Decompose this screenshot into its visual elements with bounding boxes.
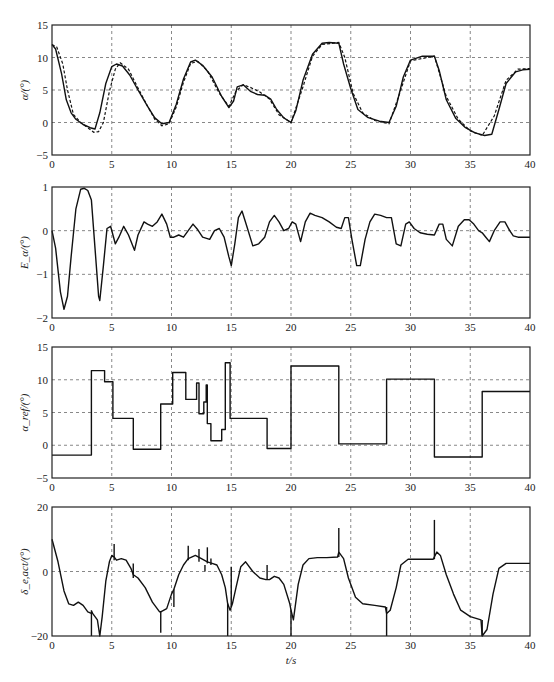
y-tick-label: 15 <box>37 341 49 353</box>
subplot-1: 0510152025303540−5051015α/(°) <box>18 19 536 170</box>
x-tick-label: 35 <box>465 639 477 651</box>
subplot-2: 0510152025303540−2−101E_α/(°) <box>18 181 536 333</box>
y-axis-label: δ_e,act/(°) <box>18 548 31 595</box>
x-tick-label: 15 <box>226 158 238 170</box>
x-tick-label: 0 <box>49 321 55 333</box>
x-tick-label: 30 <box>405 639 417 651</box>
figure-canvas: 0510152025303540−5051015α/(°)05101520253… <box>0 0 554 682</box>
x-tick-label: 40 <box>525 158 537 170</box>
x-tick-label: 5 <box>109 639 115 651</box>
x-tick-label: 0 <box>49 639 55 651</box>
x-tick-label: 35 <box>465 158 477 170</box>
x-tick-label: 35 <box>465 321 477 333</box>
y-tick-label: 10 <box>37 374 49 386</box>
x-tick-label: 35 <box>465 481 477 493</box>
y-tick-label: 0 <box>43 225 49 237</box>
series-solid <box>52 363 530 457</box>
x-tick-label: 0 <box>49 481 55 493</box>
x-tick-label: 5 <box>109 158 115 170</box>
x-tick-label: 5 <box>109 481 115 493</box>
y-tick-label: −5 <box>36 149 48 161</box>
x-tick-label: 20 <box>286 481 298 493</box>
y-axis-label: α_ref/(°) <box>18 393 31 431</box>
x-tick-label: 15 <box>226 481 238 493</box>
x-tick-label: 25 <box>345 158 357 170</box>
y-tick-label: −5 <box>36 472 48 484</box>
x-tick-label: 10 <box>166 158 178 170</box>
y-tick-label: −20 <box>31 630 49 642</box>
x-tick-label: 40 <box>525 321 537 333</box>
x-tick-label: 40 <box>525 639 537 651</box>
x-tick-label: 20 <box>286 158 298 170</box>
x-tick-label: 15 <box>226 639 238 651</box>
x-tick-label: 0 <box>49 158 55 170</box>
subplot-4: 0510152025303540−20020δ_e,act/(°) <box>18 501 536 651</box>
y-axis-label: α/(°) <box>18 79 31 100</box>
x-tick-label: 10 <box>166 481 178 493</box>
y-tick-label: 1 <box>43 181 49 193</box>
x-tick-label: 5 <box>109 321 115 333</box>
x-tick-label: 15 <box>226 321 238 333</box>
x-tick-label: 30 <box>405 481 417 493</box>
y-tick-label: −2 <box>36 312 48 324</box>
y-tick-label: 0 <box>43 439 49 451</box>
x-tick-label: 25 <box>345 481 357 493</box>
x-axis-label: t/s <box>286 654 296 666</box>
x-tick-label: 25 <box>345 639 357 651</box>
x-tick-label: 10 <box>166 639 178 651</box>
x-tick-label: 10 <box>166 321 178 333</box>
y-tick-label: 15 <box>37 19 49 31</box>
y-tick-label: −1 <box>36 268 48 280</box>
y-tick-label: 20 <box>37 501 49 513</box>
y-tick-label: 5 <box>43 84 49 96</box>
x-tick-label: 40 <box>525 481 537 493</box>
subplot-3: 0510152025303540−5051015α_ref/(°) <box>18 341 536 493</box>
y-tick-label: 0 <box>43 117 49 129</box>
x-tick-label: 25 <box>345 321 357 333</box>
y-tick-label: 10 <box>37 52 49 64</box>
x-tick-label: 20 <box>286 321 298 333</box>
y-tick-label: 0 <box>43 566 49 578</box>
x-tick-label: 30 <box>405 321 417 333</box>
x-tick-label: 30 <box>405 158 417 170</box>
x-tick-label: 20 <box>286 639 298 651</box>
y-axis-label: E_α/(°) <box>18 236 31 270</box>
y-tick-label: 5 <box>43 407 49 419</box>
